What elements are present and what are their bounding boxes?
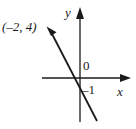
- point-coordinate-label: (–2, 4): [2, 20, 37, 33]
- plotted-line-group: [47, 27, 98, 122]
- y-axis-arrowhead: [76, 7, 84, 19]
- y-axis-label: y: [65, 6, 71, 19]
- x-axis-arrowhead: [120, 74, 131, 82]
- x-axis-group: [42, 74, 131, 82]
- plotted-line: [50, 30, 97, 121]
- x-axis-label: x: [117, 85, 123, 98]
- coordinate-graph-figure: (–2, 4) y x 0 –1: [0, 0, 136, 129]
- plotted-line-arrowhead: [47, 27, 57, 37]
- origin-label: 0: [83, 59, 90, 72]
- y-intercept-label: –1: [82, 83, 95, 96]
